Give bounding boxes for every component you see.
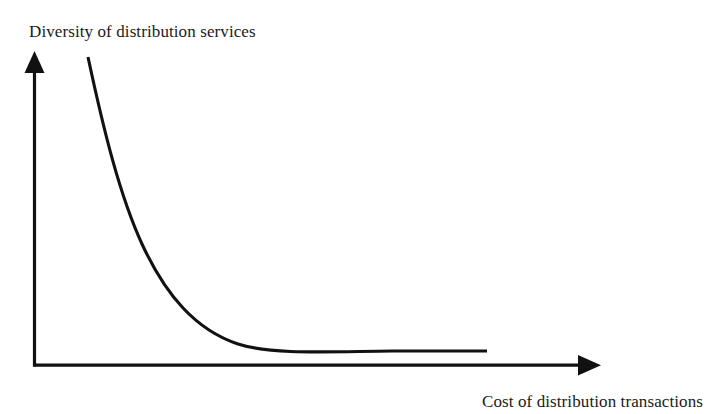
decay-curve <box>88 57 487 352</box>
arrow-right-icon <box>578 355 601 376</box>
x-axis-label: Cost of distribution transactions <box>482 392 703 412</box>
chart-figure: Diversity of distribution services Cost … <box>0 0 724 414</box>
chart-canvas <box>0 0 724 414</box>
y-axis-label: Diversity of distribution services <box>29 22 256 42</box>
arrow-up-icon <box>25 51 45 73</box>
